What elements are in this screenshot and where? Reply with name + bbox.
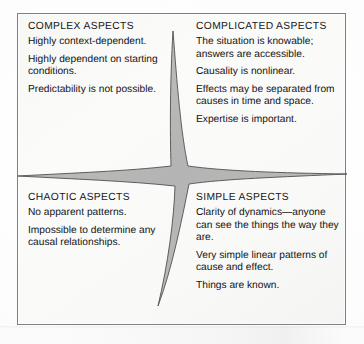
quadrant-chaotic: CHAOTIC ASPECTS No apparent patterns. Im…	[28, 192, 183, 250]
quadrant-simple-paragraph: Very simple linear patterns of cause and…	[196, 250, 342, 275]
quadrant-complicated-paragraph: Effects may be separated from causes in …	[196, 84, 342, 109]
quadrant-complicated-paragraph: The situation is knowable; answers are a…	[196, 36, 342, 61]
quadrant-simple-title: SIMPLE ASPECTS	[196, 192, 342, 203]
quadrant-chaotic-title: CHAOTIC ASPECTS	[28, 192, 183, 203]
quadrant-complex: COMPLEX ASPECTS Highly context-dependent…	[28, 21, 168, 96]
quadrant-complex-paragraph: Highly context-dependent.	[28, 36, 168, 49]
quadrant-simple: SIMPLE ASPECTS Clarity of dynamics—anyon…	[196, 192, 342, 293]
quadrant-chaotic-paragraph: No apparent patterns.	[28, 207, 183, 220]
quadrant-complex-paragraph: Highly dependent on starting conditions.	[28, 54, 168, 79]
figure-frame: COMPLEX ASPECTS Highly context-dependent…	[17, 13, 346, 325]
quadrant-chaotic-paragraph: Impossible to determine any causal relat…	[28, 225, 183, 250]
quadrant-complex-paragraph: Predictability is not possible.	[28, 84, 168, 97]
quadrant-complicated-title: COMPLICATED ASPECTS	[196, 21, 342, 32]
quadrant-simple-paragraph: Things are known.	[196, 280, 342, 293]
quadrant-complicated-paragraph: Causality is nonlinear.	[196, 66, 342, 79]
quadrant-simple-paragraph: Clarity of dynamics—anyone can see the t…	[196, 207, 342, 245]
quadrant-complex-title: COMPLEX ASPECTS	[28, 21, 168, 32]
quadrant-complicated-paragraph: Expertise is important.	[196, 114, 342, 127]
quadrant-complicated: COMPLICATED ASPECTS The situation is kno…	[196, 21, 342, 127]
